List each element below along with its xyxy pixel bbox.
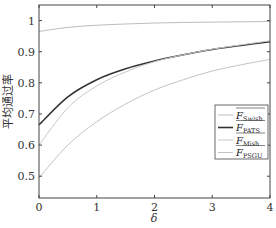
y-axis-label: 平均通过率 xyxy=(1,74,15,129)
y-tick-label: 0.5 xyxy=(18,170,36,183)
legend: FSwishFPATSFMishFPSGU xyxy=(215,105,268,160)
y-tick-label: 1 xyxy=(28,15,35,28)
line-chart: 0.50.60.70.80.91 01234 δ 平均通过率 FSwishFPA… xyxy=(0,0,276,228)
y-tick-label: 0.6 xyxy=(18,139,36,152)
y-tick-label: 0.8 xyxy=(18,77,36,90)
y-tick-label: 0.7 xyxy=(18,108,36,121)
x-axis-label: δ xyxy=(151,212,158,225)
series-line-swish xyxy=(39,21,270,31)
x-tick-label: 3 xyxy=(209,201,216,214)
x-tick-label: 4 xyxy=(267,201,274,214)
y-tick-label: 0.9 xyxy=(18,46,36,59)
x-tick-label: 0 xyxy=(36,201,43,214)
plot-frame xyxy=(39,5,270,198)
x-tick-label: 1 xyxy=(93,201,100,214)
